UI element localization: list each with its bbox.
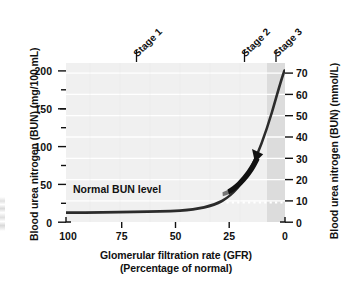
- y-right-tick-40: 40: [296, 131, 326, 143]
- x-axis-title: Glomerular filtration rate (GFR) (Percen…: [62, 249, 290, 274]
- bun-vs-gfr-figure: Stage 1 Stage 2 Stage 3 200 150 100 50 0…: [0, 0, 344, 287]
- y-right-tick-70: 70: [296, 67, 326, 79]
- right-axis-ticks: [285, 73, 293, 222]
- normal-bun-level-label: Normal BUN level: [73, 183, 161, 195]
- x-axis-ticks: [122, 222, 230, 228]
- y-right-tick-20: 20: [296, 174, 326, 186]
- stage-ticks: [137, 50, 277, 62]
- x-axis-title-line1: Glomerular filtration rate (GFR): [62, 249, 290, 262]
- y-right-tick-30: 30: [296, 153, 326, 165]
- y-right-tick-50: 50: [296, 110, 326, 122]
- x-tick-100: 100: [53, 230, 83, 242]
- x-axis-title-line2: (Percentage of normal): [62, 262, 290, 275]
- plot-background: [66, 63, 285, 222]
- y-axis-left-title: Blood urea nitrogen (BUN) (mg/100 mL): [28, 61, 40, 241]
- y-axis-right-title: Blood urea nitrogen (BUN) (mmol/L): [328, 61, 340, 241]
- y-right-tick-60: 60: [296, 89, 326, 101]
- stage-3-band: [267, 63, 285, 222]
- y-right-tick-10: 10: [296, 195, 326, 207]
- left-axis-ticks: [58, 71, 66, 222]
- x-tick-50: 50: [161, 230, 191, 242]
- x-tick-25: 25: [214, 230, 244, 242]
- x-tick-75: 75: [107, 230, 137, 242]
- x-tick-0: 0: [270, 230, 300, 242]
- y-right-tick-0: 0: [296, 217, 326, 229]
